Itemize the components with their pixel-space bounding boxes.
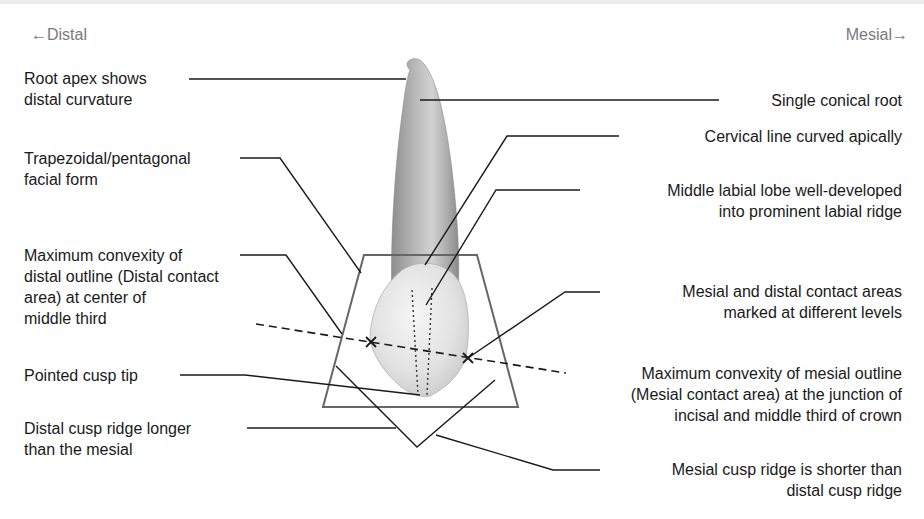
label-cervical-line: Cervical line curved apically bbox=[705, 126, 902, 147]
label-root-apex: Root apex shows distal curvature bbox=[24, 68, 147, 110]
label-distal-ridge: Distal cusp ridge longer than the mesial bbox=[24, 418, 191, 460]
label-labial-lobe: Middle labial lobe well-developed into p… bbox=[667, 180, 902, 222]
label-conical-root: Single conical root bbox=[771, 90, 902, 111]
label-contact-areas: Mesial and distal contact areas marked a… bbox=[682, 281, 902, 323]
label-distal-convexity: Maximum convexity of distal outline (Dis… bbox=[24, 245, 219, 329]
label-mesial-ridge: Mesial cusp ridge is shorter than distal… bbox=[672, 459, 902, 501]
tooth-crown bbox=[370, 263, 468, 396]
label-mesial-convexity: Maximum convexity of mesial outline (Mes… bbox=[631, 363, 902, 426]
label-cusp-tip: Pointed cusp tip bbox=[24, 365, 138, 386]
label-facial-form: Trapezoidal/pentagonal facial form bbox=[24, 148, 191, 190]
